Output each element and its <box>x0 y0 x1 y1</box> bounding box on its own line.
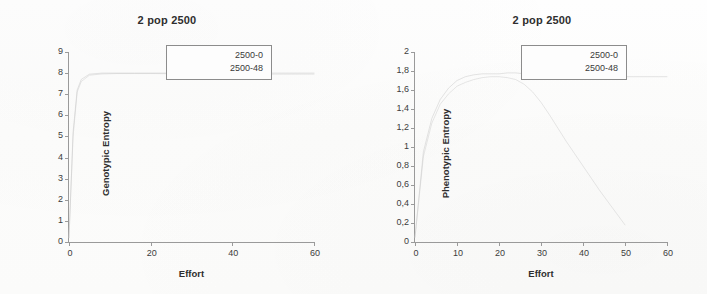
y-tick: 6 <box>65 115 69 116</box>
y-tick-label: 8 <box>58 67 63 77</box>
y-tick-label: 9 <box>58 46 63 56</box>
y-tick-label: 0,4 <box>396 198 409 208</box>
y-tick: 9 <box>65 52 69 53</box>
figure-page: 2 pop 2500 Genotypic Entropy Effort 0123… <box>0 0 707 294</box>
y-tick: 1,6 <box>411 90 415 91</box>
y-tick: 5 <box>65 136 69 137</box>
x-tick: 60 <box>667 242 668 246</box>
y-tick-label: 1,2 <box>396 122 409 132</box>
x-tick: 10 <box>457 242 458 246</box>
y-tick-label: 4 <box>58 152 63 162</box>
chart-genotypic-entropy: 2 pop 2500 Genotypic Entropy Effort 0123… <box>0 0 354 294</box>
y-tick-label: 0,6 <box>396 179 409 189</box>
y-tick: 7 <box>65 94 69 95</box>
y-tick-label: 1 <box>58 215 63 225</box>
y-tick: 2 <box>411 52 415 53</box>
chart-title-left: 2 pop 2500 <box>0 14 344 26</box>
x-tick-label: 40 <box>228 248 238 258</box>
x-tick-label: 10 <box>453 248 463 258</box>
legend-item: 2500-48 <box>177 62 263 75</box>
x-tick-label: 60 <box>310 248 320 258</box>
chart-title-right: 2 pop 2500 <box>365 14 707 26</box>
y-tick: 1,8 <box>411 71 415 72</box>
x-tick: 40 <box>232 242 233 246</box>
y-tick-label: 0 <box>58 236 63 246</box>
y-tick-label: 2 <box>58 194 63 204</box>
x-axis-title-right: Effort <box>415 268 667 279</box>
y-tick-label: 0,8 <box>396 160 409 170</box>
x-tick-label: 50 <box>621 248 631 258</box>
series-line <box>415 73 667 237</box>
legend-right: 2500-0 2500-48 <box>521 45 627 80</box>
legend-left: 2500-0 2500-48 <box>166 45 272 80</box>
y-tick-label: 7 <box>58 88 63 98</box>
x-axis-title-left: Effort <box>69 268 314 279</box>
x-tick-label: 0 <box>413 248 418 258</box>
y-tick-label: 1,6 <box>396 84 409 94</box>
y-tick: 1,4 <box>411 109 415 110</box>
y-tick-label: 1,8 <box>396 65 409 75</box>
x-tick-label: 0 <box>67 248 72 258</box>
y-tick: 4 <box>65 158 69 159</box>
x-tick: 0 <box>69 242 70 246</box>
y-tick: 1,2 <box>411 128 415 129</box>
plot-area-left: Genotypic Entropy Effort 012345678902040… <box>68 52 314 243</box>
y-tick-label: 0 <box>404 236 409 246</box>
x-tick: 30 <box>541 242 542 246</box>
x-tick-label: 20 <box>147 248 157 258</box>
x-tick: 20 <box>499 242 500 246</box>
y-tick: 0,4 <box>411 204 415 205</box>
series-line <box>415 77 625 238</box>
y-tick: 2 <box>65 200 69 201</box>
y-tick-label: 6 <box>58 109 63 119</box>
legend-item: 2500-48 <box>532 62 618 75</box>
x-tick-label: 30 <box>537 248 547 258</box>
y-tick: 0,8 <box>411 166 415 167</box>
x-tick-label: 60 <box>663 248 673 258</box>
y-tick-label: 3 <box>58 173 63 183</box>
x-tick: 40 <box>583 242 584 246</box>
chart-phenotypic-entropy: 2 pop 2500 Phenotypic Entropy Effort 00,… <box>353 0 707 294</box>
y-tick: 3 <box>65 179 69 180</box>
series-line <box>69 73 314 238</box>
x-tick-label: 40 <box>579 248 589 258</box>
data-lines-right <box>415 52 667 242</box>
x-tick-label: 20 <box>495 248 505 258</box>
y-tick-label: 0,2 <box>396 217 409 227</box>
series-line <box>69 74 314 238</box>
x-tick: 20 <box>151 242 152 246</box>
x-tick: 50 <box>625 242 626 246</box>
y-tick: 8 <box>65 73 69 74</box>
y-tick: 1 <box>65 221 69 222</box>
legend-item: 2500-0 <box>532 49 618 62</box>
y-tick: 0,6 <box>411 185 415 186</box>
x-tick: 60 <box>314 242 315 246</box>
y-tick-label: 5 <box>58 130 63 140</box>
y-tick-label: 2 <box>404 46 409 56</box>
x-tick: 0 <box>415 242 416 246</box>
y-tick-label: 1 <box>404 141 409 151</box>
data-lines-left <box>69 52 314 242</box>
y-tick-label: 1,4 <box>396 103 409 113</box>
y-tick: 0,2 <box>411 223 415 224</box>
legend-item: 2500-0 <box>177 49 263 62</box>
y-tick: 1 <box>411 147 415 148</box>
plot-area-right: Phenotypic Entropy Effort 00,20,40,60,81… <box>414 52 667 243</box>
